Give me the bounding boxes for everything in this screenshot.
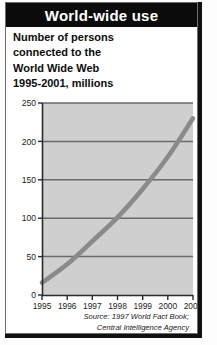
source-note: Source: 1997 World Fact Book; Central In… xyxy=(19,312,189,333)
card-frame: World-wide use Number of persons connect… xyxy=(5,2,202,338)
x-axis-tick-label: 2001 xyxy=(184,301,199,310)
x-axis-tick-label: 1999 xyxy=(133,301,152,310)
x-axis-tick-label: 2000 xyxy=(158,301,177,310)
subtitle-block: Number of persons connected to the World… xyxy=(13,30,193,92)
subtitle-line-2: connected to the xyxy=(13,45,193,60)
subtitle-line-1: Number of persons xyxy=(13,30,193,45)
y-axis-tick-label: 50 xyxy=(26,252,36,262)
y-axis-tick-label: 0 xyxy=(31,290,36,300)
line-chart: 050100150200250 199519961997199819992000… xyxy=(6,95,199,310)
y-axis-tick-label: 150 xyxy=(22,175,37,185)
y-axis-tick-label: 250 xyxy=(22,98,37,108)
card-inner: World-wide use Number of persons connect… xyxy=(5,2,198,334)
chart-svg: 050100150200250 199519961997199819992000… xyxy=(6,95,199,310)
x-axis-tick-labels: 1995199619971998199920002001 xyxy=(33,301,199,310)
subtitle-line-3: World Wide Web xyxy=(13,61,193,76)
x-axis-tick-label: 1995 xyxy=(33,301,52,310)
source-line-2: Central Intelligence Agency xyxy=(19,323,189,334)
x-axis-tick-label: 1997 xyxy=(83,301,102,310)
y-axis-tick-label: 100 xyxy=(22,213,37,223)
x-axis-tick-label: 1996 xyxy=(58,301,77,310)
subtitle-line-4: 1995-2001, millions xyxy=(13,76,193,91)
page-title: World-wide use xyxy=(45,8,158,23)
y-axis-tick-label: 200 xyxy=(22,137,37,147)
infographic-card: World-wide use Number of persons connect… xyxy=(0,0,217,345)
x-axis-tick-label: 1998 xyxy=(108,301,127,310)
header-bar: World-wide use xyxy=(6,3,197,27)
y-axis-tick-labels: 050100150200250 xyxy=(22,98,37,300)
source-line-1: Source: 1997 World Fact Book; xyxy=(19,312,189,323)
